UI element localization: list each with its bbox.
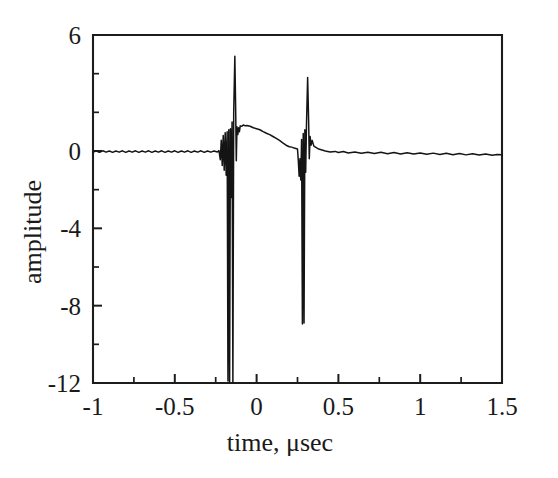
x-tick-label: 0: [250, 393, 263, 420]
y-axis-label: amplitude: [18, 180, 47, 284]
y-tick-label: -12: [48, 370, 81, 397]
y-tick-label: -8: [60, 293, 81, 320]
x-tick-label: 1: [414, 393, 427, 420]
x-tick-label: 0.5: [323, 393, 354, 420]
x-tick-label: -1: [83, 393, 104, 420]
amplitude-vs-time-chart: 60-4-8-12 -1-0.500.511.5 time, μsec ampl…: [0, 0, 558, 478]
y-tick-label: 0: [69, 138, 82, 165]
figure-container: 60-4-8-12 -1-0.500.511.5 time, μsec ampl…: [0, 0, 558, 478]
y-tick-label: 6: [69, 22, 82, 49]
y-tick-label: -4: [60, 215, 81, 242]
x-axis-label: time, μsec: [227, 428, 333, 457]
x-tick-label: -0.5: [155, 393, 195, 420]
x-tick-label: 1.5: [486, 393, 517, 420]
